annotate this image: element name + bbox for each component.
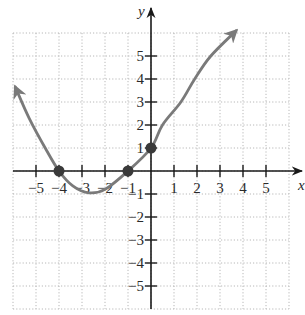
x-tick-label: 1 (170, 180, 178, 196)
y-tick-label: −5 (128, 278, 144, 294)
y-tick-label: 1 (137, 140, 145, 156)
x-tick-label: 3 (216, 180, 224, 196)
y-tick-label: 4 (137, 71, 145, 87)
y-tick-label: −2 (128, 209, 144, 225)
highlighted-point (54, 166, 65, 177)
axes (13, 8, 302, 309)
coordinate-plane: −5−4−3−2−112345−5−4−3−2−112345 x y (0, 0, 305, 315)
highlighted-point (146, 143, 157, 154)
y-tick-label: 2 (137, 117, 145, 133)
x-axis-label: x (297, 177, 305, 193)
y-tick-label: −3 (128, 232, 144, 248)
y-tick-label: −1 (128, 186, 144, 202)
x-tick-label: 2 (193, 180, 201, 196)
y-tick-label: −4 (128, 255, 144, 271)
x-tick-label: 5 (262, 180, 270, 196)
x-tick-label: 4 (239, 180, 247, 196)
y-tick-label: 3 (137, 94, 145, 110)
x-tick-label: −5 (28, 180, 44, 196)
x-tick-label: −4 (51, 180, 67, 196)
highlighted-point (123, 166, 134, 177)
y-tick-label: 5 (137, 48, 145, 64)
y-axis-label: y (136, 3, 145, 19)
